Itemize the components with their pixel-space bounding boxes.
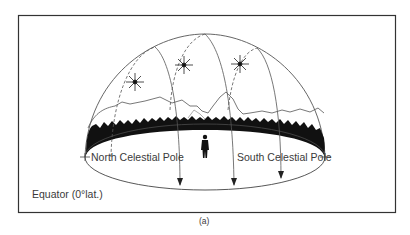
observer-person-icon [201,135,209,158]
arrow-down-icon [231,178,237,186]
equator-label: Equator (0°lat.) [32,188,103,200]
star-left [126,73,144,91]
path-arrowheads [177,171,284,186]
arrow-down-icon [177,178,183,186]
figure-caption: (a) [199,216,210,226]
north-celestial-pole-label: North Celestial Pole [91,151,184,163]
south-celestial-pole-label: South Celestial Pole [237,151,332,163]
star-right [231,55,249,73]
figure-frame [19,16,396,213]
arrow-down-icon [278,171,284,179]
celestial-sphere-diagram: North Celestial Pole South Celestial Pol… [0,0,410,235]
star-middle [175,56,193,74]
